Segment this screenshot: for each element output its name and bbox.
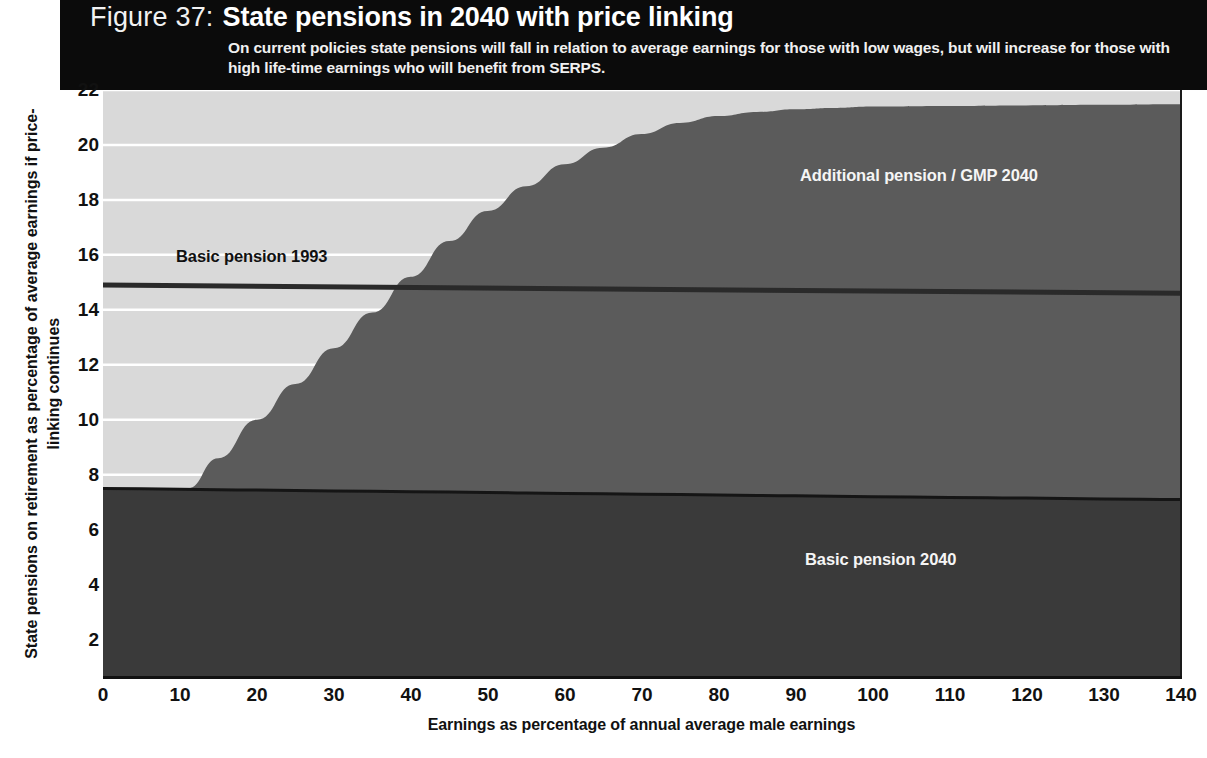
x-tick-70: 70	[612, 684, 672, 706]
y-tick-22: 22	[39, 79, 99, 101]
series-basic-pension-2040-area	[103, 488, 1180, 678]
x-tick-50: 50	[458, 684, 518, 706]
figure-root: Figure 37:State pensions in 2040 with pr…	[0, 0, 1207, 758]
x-tick-110: 110	[920, 684, 980, 706]
x-tick-60: 60	[535, 684, 595, 706]
x-tick-30: 30	[304, 684, 364, 706]
y-axis-title: State pensions on retirement as percenta…	[21, 104, 64, 664]
x-tick-40: 40	[381, 684, 441, 706]
x-tick-20: 20	[227, 684, 287, 706]
label-basic-pension-2040: Basic pension 2040	[805, 550, 956, 569]
x-tick-0: 0	[73, 684, 133, 706]
plot-area: Basic pension 1993 Additional pension / …	[103, 90, 1182, 678]
title-banner: Figure 37:State pensions in 2040 with pr…	[60, 0, 1207, 90]
x-axis-title: Earnings as percentage of annual average…	[103, 716, 1180, 734]
x-tick-90: 90	[766, 684, 826, 706]
x-tick-80: 80	[689, 684, 749, 706]
label-additional-pension: Additional pension / GMP 2040	[800, 166, 1038, 185]
x-tick-100: 100	[843, 684, 903, 706]
x-axis-line	[103, 676, 1182, 679]
x-tick-130: 130	[1074, 684, 1134, 706]
x-tick-10: 10	[150, 684, 210, 706]
x-tick-140: 140	[1151, 684, 1207, 706]
figure-subtitle: On current policies state pensions will …	[228, 38, 1178, 79]
x-tick-120: 120	[997, 684, 1057, 706]
title-row: Figure 37:State pensions in 2040 with pr…	[90, 2, 734, 33]
figure-number: Figure 37:	[90, 2, 214, 33]
label-basic-pension-1993: Basic pension 1993	[176, 247, 327, 266]
page-title: State pensions in 2040 with price linkin…	[223, 2, 734, 33]
